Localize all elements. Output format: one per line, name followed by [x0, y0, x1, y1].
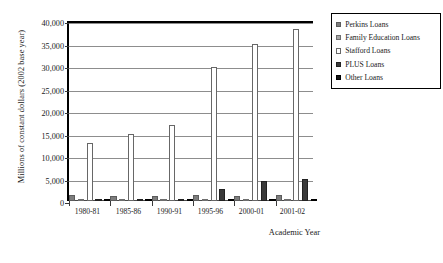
y-axis-tick-label: 35,000: [41, 41, 64, 50]
bar-group: [110, 23, 151, 201]
legend-swatch-icon: [336, 75, 341, 80]
bar: [128, 134, 134, 202]
bar: [234, 196, 240, 201]
y-axis-tick-label: 40,000: [41, 19, 64, 28]
bar: [261, 181, 267, 201]
bar: [87, 143, 93, 201]
legend-label: PLUS Loans: [345, 60, 384, 69]
legend-swatch-icon: [336, 62, 341, 67]
bar: [219, 189, 225, 201]
bar: [243, 199, 249, 201]
plot-area: 05,00010,00015,00020,00025,00030,00035,0…: [67, 21, 313, 201]
bar: [78, 199, 84, 201]
x-axis-tick-label: 2000-01: [231, 207, 272, 216]
bar: [152, 196, 158, 201]
y-axis-tick-label: 0: [60, 199, 64, 208]
chart-legend: Perkins LoansFamily Education LoansStaff…: [331, 13, 441, 89]
legend-label: Family Education Loans: [345, 33, 420, 42]
legend-item[interactable]: Family Education Loans: [336, 31, 437, 44]
y-axis-tick-label: 30,000: [41, 64, 64, 73]
bar: [302, 179, 308, 202]
bar: [276, 195, 282, 201]
x-axis-tick-label: 2001-02: [272, 207, 313, 216]
y-axis-tick-label: 5,000: [46, 176, 64, 185]
legend-item[interactable]: Stafford Loans: [336, 44, 437, 57]
bar: [69, 195, 75, 201]
bar-group: [69, 23, 110, 201]
bar-groups: [69, 23, 313, 201]
bar-chart: Millions of constant dollars (2002 base …: [0, 0, 443, 263]
x-axis-tick-labels: 1980-811985-861990-911995-962000-012001-…: [67, 207, 313, 216]
x-axis-tick-label: 1995-96: [190, 207, 231, 216]
bar: [178, 199, 184, 201]
bar: [284, 199, 290, 201]
y-axis-tick-label: 25,000: [41, 86, 64, 95]
bar: [193, 195, 199, 201]
legend-item[interactable]: Perkins Loans: [336, 18, 437, 31]
y-axis-tick-label: 15,000: [41, 131, 64, 140]
bar-group: [276, 23, 317, 201]
bar: [252, 44, 258, 202]
bar: [119, 199, 125, 201]
legend-label: Other Loans: [345, 73, 383, 82]
bar-group: [152, 23, 193, 201]
legend-label: Stafford Loans: [345, 46, 390, 55]
legend-swatch-icon: [336, 35, 341, 40]
bar-group: [234, 23, 275, 201]
legend-item[interactable]: PLUS Loans: [336, 58, 437, 71]
bar: [110, 196, 116, 201]
y-axis-title: Millions of constant dollars (2002 base …: [17, 12, 26, 202]
bar-group: [193, 23, 234, 201]
x-axis-tick-label: 1990-91: [149, 207, 190, 216]
bar: [160, 199, 166, 201]
legend-item[interactable]: Other Loans: [336, 71, 437, 84]
bar: [202, 199, 208, 201]
bar: [95, 199, 101, 201]
legend-label: Perkins Loans: [345, 20, 388, 29]
y-axis-tick-label: 10,000: [41, 154, 64, 163]
y-axis-tick-label: 20,000: [41, 109, 64, 118]
x-axis-tick-label: 1980-81: [67, 207, 108, 216]
bar: [211, 67, 217, 201]
bar: [137, 199, 143, 201]
legend-swatch-icon: [336, 22, 341, 27]
x-axis-tick-label: 1985-86: [108, 207, 149, 216]
bar: [169, 125, 175, 202]
legend-swatch-icon: [336, 48, 341, 53]
bar: [311, 199, 317, 201]
x-axis-title: Academic Year: [0, 228, 320, 237]
bar: [293, 29, 299, 201]
